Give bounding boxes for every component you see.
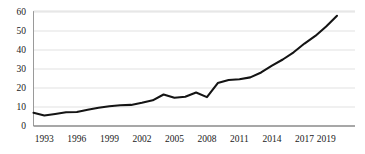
x-axis-tick-label: 2002	[127, 134, 157, 145]
x-axis-tick-label: 1999	[94, 134, 124, 145]
y-axis-tick-label: 20	[6, 83, 26, 93]
x-axis-tick-label: 2011	[224, 134, 254, 145]
x-axis-tick-label: 2019	[311, 134, 341, 145]
x-axis-tick-label: 2014	[257, 134, 287, 145]
line-chart: 0102030405060199319961999200220052008201…	[0, 0, 365, 154]
y-axis-tick-label: 10	[6, 102, 26, 112]
x-axis-tick-label: 2008	[192, 134, 222, 145]
y-axis-tick-label: 30	[6, 64, 26, 74]
x-axis-tick-label: 1996	[62, 134, 92, 145]
y-axis-tick-label: 40	[6, 45, 26, 55]
y-axis-tick-label: 50	[6, 26, 26, 36]
y-axis-tick-label: 60	[6, 7, 26, 17]
y-axis-tick-label: 0	[6, 121, 26, 131]
chart-plot-area	[0, 0, 365, 154]
x-axis-tick-label: 1993	[29, 134, 59, 145]
x-axis-tick-label: 2005	[159, 134, 189, 145]
